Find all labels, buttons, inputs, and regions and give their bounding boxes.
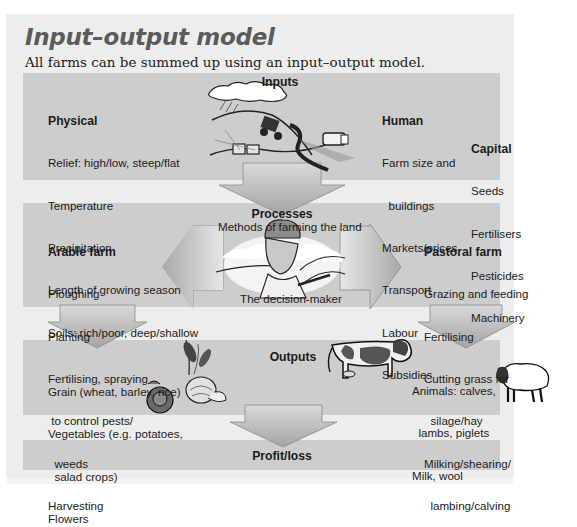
arrow-outputs-to-profit — [230, 405, 337, 447]
profit-loss-label: Profit/loss — [232, 449, 332, 463]
human-heading: Human — [382, 114, 457, 128]
physical-heading: Physical — [48, 114, 198, 128]
processes-subheading: Methods of farming the land — [218, 220, 348, 234]
crop-output-item: Flowers — [48, 512, 183, 526]
animal-output-item: lambs, piglets — [412, 426, 496, 440]
crop-output-item: Vegetables (e.g. potatoes, — [48, 427, 183, 441]
human-item: buildings — [382, 199, 457, 213]
decision-maker-caption: The decision-maker — [236, 292, 346, 306]
pastoral-item: Fertilising — [424, 330, 528, 344]
physical-item: Temperature — [48, 199, 198, 213]
crop-outputs: Grain (wheat, barley, rice) Vegetables (… — [48, 357, 183, 527]
outputs-heading: Outputs — [258, 350, 328, 364]
crop-output-item: Grain (wheat, barley, rice) — [48, 385, 183, 399]
arable-item: Planting — [48, 330, 148, 344]
inputs-heading: Inputs — [245, 75, 315, 89]
farm-landscape-icon — [209, 82, 355, 170]
onion-icon — [186, 377, 226, 403]
human-item: Farm size and — [382, 156, 457, 170]
crop-output-item: salad crops) — [48, 470, 183, 484]
pastoral-heading: Pastoral farm — [424, 245, 528, 259]
arable-item: Ploughing — [48, 287, 148, 301]
animal-output-item: Animals: calves, — [412, 384, 496, 398]
animal-output-item: Milk, wool — [412, 469, 496, 483]
capital-heading: Capital — [471, 142, 524, 156]
pastoral-item: Grazing and feeding — [424, 287, 528, 301]
pastoral-item: lambing/calving — [424, 499, 528, 513]
capital-item: Seeds — [471, 184, 524, 198]
processes-heading: Processes — [232, 207, 332, 221]
arable-heading: Arable farm — [48, 245, 148, 259]
physical-item: Relief: high/low, steep/flat — [48, 156, 198, 170]
animal-outputs: Animals: calves, lambs, piglets Milk, wo… — [412, 356, 496, 497]
